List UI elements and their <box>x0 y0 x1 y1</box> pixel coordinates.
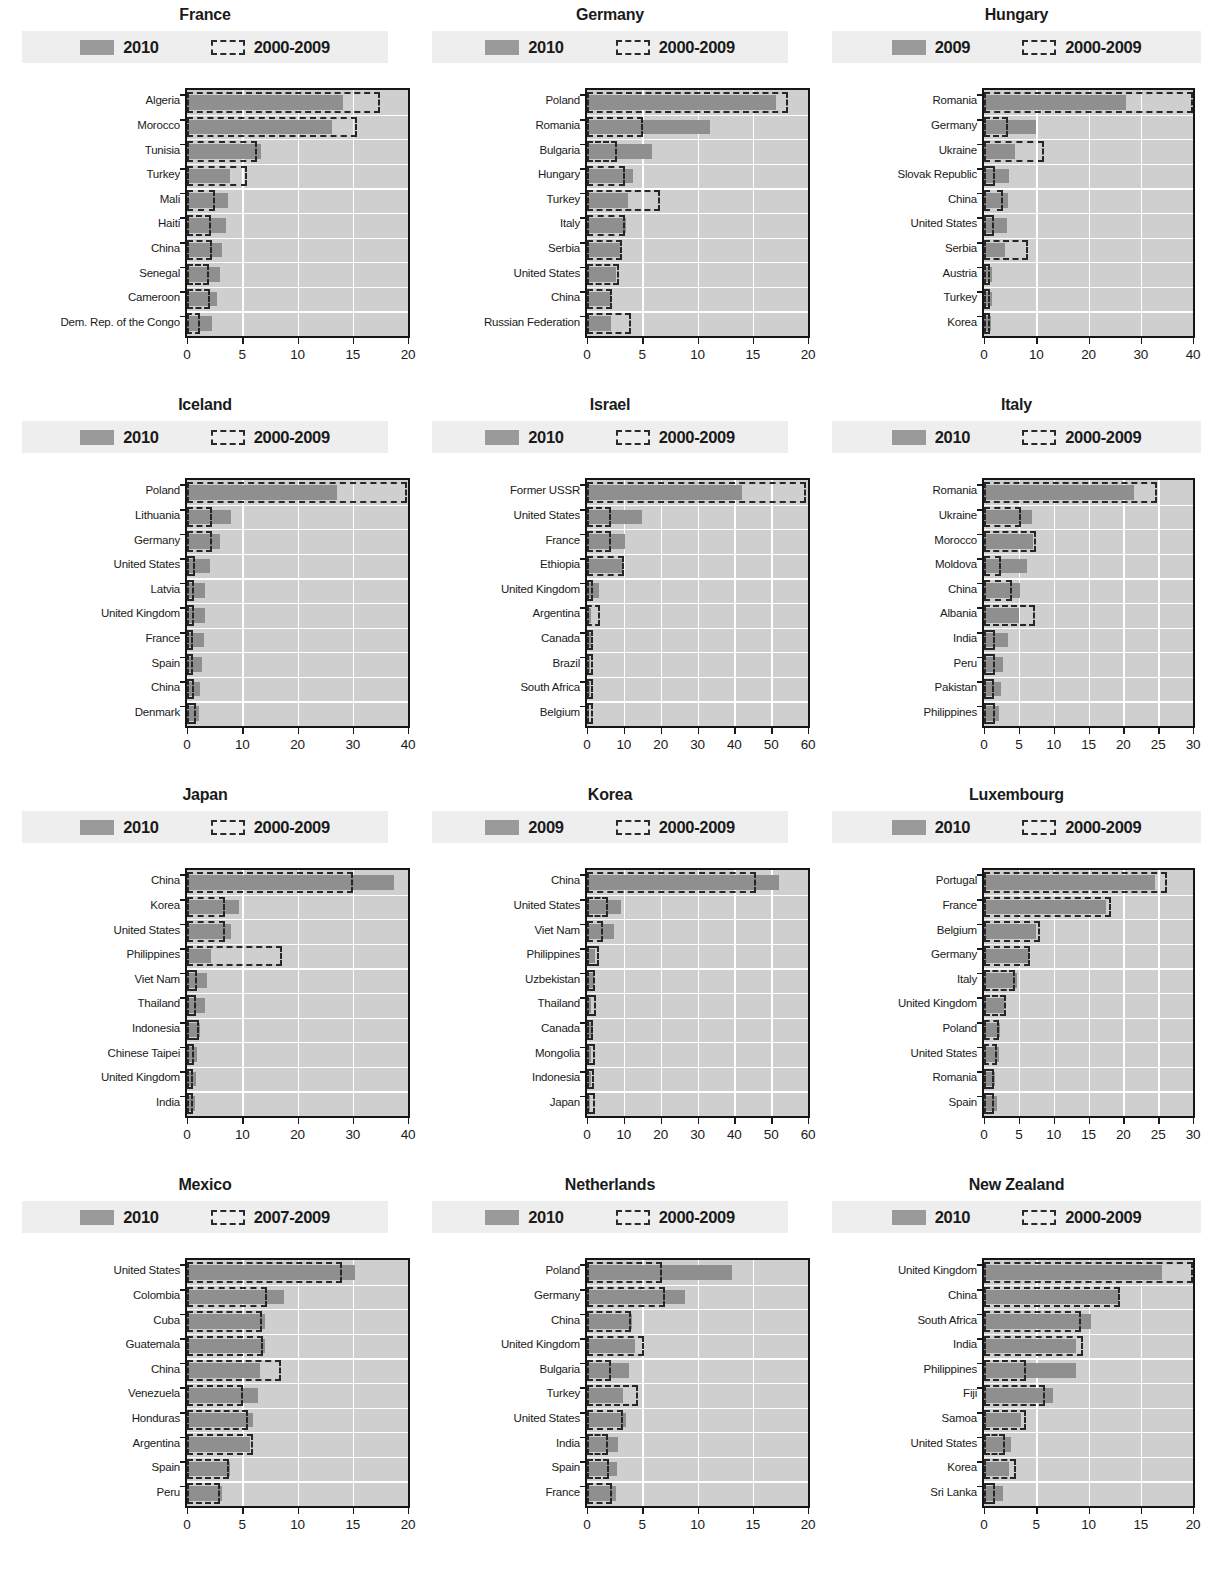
bar-historical-period <box>587 580 593 601</box>
x-axis-tick-label: 15 <box>345 347 360 362</box>
bar-historical-period <box>984 1069 994 1090</box>
bar-historical-period <box>587 679 593 700</box>
dashed-outline-swatch-icon <box>1022 1210 1056 1225</box>
category-label: Pakistan <box>934 681 977 693</box>
x-axis-tick-label: 20 <box>290 1127 305 1142</box>
category-label: South Africa <box>520 681 580 693</box>
category-label: Turkey <box>146 168 180 180</box>
x-axis-tick <box>734 1118 735 1124</box>
y-axis-tick <box>580 948 585 950</box>
category-label: Philippines <box>527 948 580 960</box>
y-axis-tick <box>977 1096 982 1098</box>
x-axis-tick-label: 30 <box>1133 347 1148 362</box>
y-axis-tick <box>180 484 185 486</box>
x-axis-tick <box>1193 1118 1194 1124</box>
bar-historical-period <box>984 1262 1193 1283</box>
y-axis-tick <box>977 1437 982 1439</box>
bar-historical-period <box>984 1044 997 1065</box>
gridline-horizontal <box>984 1042 1193 1043</box>
x-axis-tick-label: 10 <box>235 1127 250 1142</box>
category-label: Poland <box>545 1264 580 1276</box>
category-label: Morocco <box>934 534 977 546</box>
y-axis-tick <box>580 217 585 219</box>
x-axis-tick <box>624 728 625 734</box>
gridline-horizontal <box>187 188 408 189</box>
bar-historical-period <box>587 1287 665 1308</box>
x-axis-tick-label: 15 <box>1133 1517 1148 1532</box>
category-label: Italy <box>560 217 580 229</box>
bar-historical-period <box>187 995 196 1016</box>
bar-historical-period <box>984 313 990 334</box>
category-label: Philippines <box>924 1363 977 1375</box>
legend-entry-current: 2010 <box>485 428 564 447</box>
category-label: Colombia <box>133 1289 180 1301</box>
category-label: Slovak Republic <box>898 168 977 180</box>
bar-historical-period <box>587 605 600 626</box>
gridline-horizontal <box>984 1018 1193 1019</box>
x-axis-tick-label: 0 <box>183 1517 190 1532</box>
solid-bar-swatch-icon <box>80 430 114 445</box>
bar-historical-period <box>187 166 247 187</box>
panel-title: France <box>0 0 410 28</box>
x-axis-tick <box>587 338 588 344</box>
gridline-horizontal <box>587 701 808 702</box>
bar-historical-period <box>984 1311 1081 1332</box>
x-axis-tick-label: 40 <box>727 1127 742 1142</box>
legend-label-historical: 2000-2009 <box>1065 38 1141 57</box>
gridline-horizontal <box>187 213 408 214</box>
legend-label-historical: 2000-2009 <box>659 818 735 837</box>
x-axis-tick-label: 10 <box>1046 737 1061 752</box>
bar-historical-period <box>587 1044 595 1065</box>
bar-historical-period <box>187 1459 229 1480</box>
y-axis-tick <box>580 1289 585 1291</box>
chart-legend: 20102007-2009 <box>22 1201 388 1233</box>
y-axis-tick <box>580 1437 585 1439</box>
category-label: Ukraine <box>939 144 977 156</box>
y-axis-tick <box>180 973 185 975</box>
x-axis-tick-label: 30 <box>1186 737 1201 752</box>
y-axis-tick <box>580 484 585 486</box>
x-axis-tick <box>698 728 699 734</box>
category-label: China <box>151 681 180 693</box>
bar-historical-period <box>984 190 1003 211</box>
gridline-horizontal <box>187 311 408 312</box>
x-axis-tick <box>1036 338 1037 344</box>
category-label: Mongolia <box>535 1047 580 1059</box>
x-axis-tick <box>1089 338 1090 344</box>
x-axis-tick-label: 0 <box>583 1127 590 1142</box>
y-axis-tick <box>180 899 185 901</box>
bar-historical-period <box>187 872 353 893</box>
x-axis-tick-label: 15 <box>345 1517 360 1532</box>
category-label: Moldova <box>935 558 977 570</box>
legend-entry-historical: 2000-2009 <box>211 38 330 57</box>
solid-bar-swatch-icon <box>485 820 519 835</box>
y-axis-tick <box>580 1486 585 1488</box>
legend-label-historical: 2000-2009 <box>659 38 735 57</box>
legend-label-historical: 2000-2009 <box>254 818 330 837</box>
gridline-horizontal <box>187 578 408 579</box>
y-axis-tick <box>580 193 585 195</box>
bar-historical-period <box>984 507 1021 528</box>
legend-label-historical: 2000-2009 <box>1065 1208 1141 1227</box>
category-label: Poland <box>545 94 580 106</box>
y-axis-tick <box>180 242 185 244</box>
gridline-horizontal <box>587 968 808 969</box>
plot-area <box>982 868 1195 1118</box>
bar-historical-period <box>587 215 625 236</box>
y-axis-tick <box>580 1264 585 1266</box>
bar-historical-period <box>587 654 593 675</box>
y-axis-tick <box>977 1363 982 1365</box>
bar-historical-period <box>984 580 1012 601</box>
category-label: United States <box>911 1437 977 1449</box>
x-axis-tick <box>771 728 772 734</box>
y-axis-tick <box>977 1289 982 1291</box>
panel-title: Luxembourg <box>810 780 1223 808</box>
bar-historical-period <box>984 654 995 675</box>
bar-historical-period <box>587 897 608 918</box>
y-axis-tick <box>977 144 982 146</box>
bar-historical-period <box>187 1434 253 1455</box>
category-label: Haiti <box>158 217 180 229</box>
bar-historical-period <box>587 240 622 261</box>
category-label: Fiji <box>963 1387 977 1399</box>
y-axis-tick <box>180 316 185 318</box>
